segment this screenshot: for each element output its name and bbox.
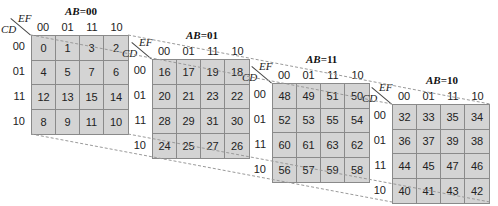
row-header: 00 (248, 88, 266, 100)
kmap-cell: 7 (80, 61, 104, 86)
kmap-cell: 59 (321, 158, 345, 183)
kmap-cell: 51 (321, 84, 345, 109)
kmap-grid: 48495150525355546061636256575958 (272, 83, 370, 183)
row-header: 10 (7, 115, 25, 127)
column-header: 10 (226, 45, 250, 57)
kmap-cell: 63 (321, 133, 345, 158)
kmap-cell: 54 (345, 109, 369, 134)
ab-value: =10 (441, 74, 458, 86)
kmap-cell: 40 (393, 179, 417, 204)
kmap-cell: 1 (56, 36, 80, 61)
map-ab-label: AB=11 (306, 53, 337, 65)
cd-variable-label: CD (362, 92, 377, 104)
row-header: 11 (128, 114, 146, 126)
kmap-cell: 15 (80, 85, 104, 110)
ab-variable: AB (426, 74, 441, 86)
row-header: 01 (248, 113, 266, 125)
kmap-cell: 43 (441, 179, 465, 204)
kmap-cell: 37 (417, 130, 441, 155)
kmap-cell: 21 (177, 85, 201, 110)
kmap-cell: 6 (104, 61, 128, 86)
ef-variable-label: EF (139, 36, 152, 48)
ab-variable: AB (65, 5, 80, 17)
column-header: 00 (31, 21, 55, 33)
column-header: 11 (321, 69, 345, 81)
kmap-cell: 24 (153, 134, 177, 159)
column-header: 01 (417, 90, 441, 102)
kmap-cell: 44 (393, 154, 417, 179)
kmap-cell: 22 (225, 85, 249, 110)
column-header: 00 (272, 69, 296, 81)
kmap-cell: 53 (297, 109, 321, 134)
kmap-cell: 3 (80, 36, 104, 61)
kmap-cell: 16 (153, 60, 177, 85)
kmap-cell: 42 (465, 179, 489, 204)
kmap-cell: 4 (32, 61, 56, 86)
kmap-cell: 61 (297, 133, 321, 158)
kmap-cell: 36 (393, 130, 417, 155)
kmap-cell: 25 (177, 134, 201, 159)
kmap-cell: 17 (177, 60, 201, 85)
ef-variable-label: EF (259, 60, 272, 72)
kmap-cell: 57 (297, 158, 321, 183)
row-header: 11 (368, 159, 386, 171)
column-header: 01 (177, 45, 201, 57)
row-header: 11 (7, 90, 25, 102)
kmap-cell: 32 (393, 105, 417, 130)
cd-variable-label: CD (242, 71, 257, 83)
kmap-cell: 9 (56, 110, 80, 135)
row-header: 01 (7, 65, 25, 77)
kmap-cell: 62 (345, 133, 369, 158)
kmap-cell: 55 (321, 109, 345, 134)
row-header: 01 (128, 89, 146, 101)
column-header: 11 (201, 45, 225, 57)
kmap-grid: 0132457612131514891110 (31, 35, 129, 135)
column-header: 01 (56, 21, 80, 33)
map-ab-label: AB=00 (65, 5, 97, 17)
kmap-cell: 31 (201, 109, 225, 134)
column-header: 10 (105, 21, 129, 33)
kmap-cell: 27 (201, 134, 225, 159)
kmap-cell: 38 (465, 130, 489, 155)
kmap-cell: 60 (273, 133, 297, 158)
kmap-cell: 29 (177, 109, 201, 134)
kmap-cell: 58 (345, 158, 369, 183)
kmap-cell: 35 (441, 105, 465, 130)
column-header: 01 (297, 69, 321, 81)
row-header: 10 (368, 184, 386, 196)
kmap-cell: 0 (32, 36, 56, 61)
cd-variable-label: CD (122, 47, 137, 59)
kmap-cell: 46 (465, 154, 489, 179)
kmap-cell: 19 (201, 60, 225, 85)
row-header: 00 (128, 64, 146, 76)
column-header: 11 (80, 21, 104, 33)
ab-variable: AB (186, 29, 201, 41)
kmap-cell: 11 (80, 110, 104, 135)
ef-variable-label: EF (379, 81, 392, 93)
kmap-cell: 33 (417, 105, 441, 130)
column-header: 00 (152, 45, 176, 57)
column-header: 10 (466, 90, 490, 102)
kmap-cell: 23 (201, 85, 225, 110)
kmap-cell: 5 (56, 61, 80, 86)
kmap-cell: 26 (225, 134, 249, 159)
row-header: 10 (248, 163, 266, 175)
kmap-cell: 47 (441, 154, 465, 179)
map-ab-label: AB=01 (186, 29, 218, 41)
column-header: 00 (392, 90, 416, 102)
row-header: 10 (128, 139, 146, 151)
row-header: 01 (368, 134, 386, 146)
row-header: 00 (7, 40, 25, 52)
kmap-cell: 41 (417, 179, 441, 204)
cd-variable-label: CD (1, 23, 16, 35)
kmap-cell: 10 (104, 110, 128, 135)
row-header: 11 (248, 138, 266, 150)
kmap-cell: 20 (153, 85, 177, 110)
kmap-cell: 12 (32, 85, 56, 110)
kmap-cell: 48 (273, 84, 297, 109)
kmap-cell: 56 (273, 158, 297, 183)
ab-variable: AB (306, 53, 321, 65)
kmap-cell: 13 (56, 85, 80, 110)
kmap-grid: 32333534363739384445474640414342 (392, 104, 490, 204)
column-header: 11 (441, 90, 465, 102)
